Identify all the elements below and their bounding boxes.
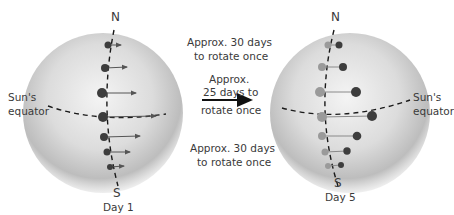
north-label-day1: N (111, 11, 120, 24)
equator-rotation-label-line3: rotate once (201, 104, 261, 117)
north-label-day5: N (331, 11, 340, 24)
bottom-rotation-label-line1: Approx. 30 days (190, 142, 275, 155)
equator-rotation-label-line2: 25 days to (203, 86, 258, 99)
equator-label-right-line1: Sun's (413, 91, 441, 104)
equator-label-left-line2: equator (8, 105, 49, 118)
equator-label-left-line1: Sun's (8, 91, 36, 104)
day5-caption: Day 5 (325, 191, 356, 204)
top-rotation-label-line2: to rotate once (194, 50, 268, 63)
bottom-rotation-label-line2: to rotate once (197, 156, 271, 169)
sun-sphere-day5 (270, 33, 430, 193)
south-label-day1: S (113, 187, 121, 200)
sun-day5 (270, 30, 430, 193)
equator-label-right-line2: equator (413, 105, 454, 118)
south-label-day5: S (334, 177, 342, 190)
equator-rotation-label-line1: Approx. (209, 73, 249, 86)
top-rotation-label-line1: Approx. 30 days (187, 36, 272, 49)
day1-caption: Day 1 (103, 201, 134, 214)
